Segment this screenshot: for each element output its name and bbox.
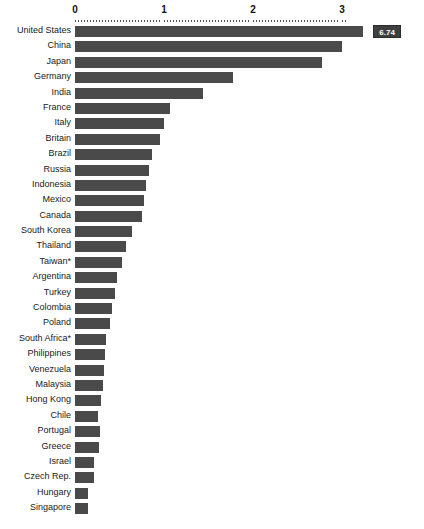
bar-category-label-text: Japan <box>46 56 71 68</box>
bar-row: Portugal <box>0 425 424 440</box>
bar <box>75 380 103 391</box>
bar <box>75 318 110 329</box>
bar-category-label-text: Singapore <box>30 502 71 514</box>
bar <box>75 226 132 237</box>
bar-category-label-text: Hungary <box>37 487 71 499</box>
bar <box>75 472 94 483</box>
bar-category-label-text: Czech Rep. <box>24 471 71 483</box>
bar-category-label-text: Israel <box>49 456 71 468</box>
bar-row: Japan <box>0 56 424 71</box>
x-axis-tick-labels: 0123 <box>0 4 424 18</box>
bar-category-label-text: United States <box>17 25 71 37</box>
bar <box>75 457 94 468</box>
bar-category-label-text: Taiwan* <box>39 256 71 268</box>
bar <box>75 411 98 422</box>
bar-category-label-text: Venezuela <box>29 364 71 376</box>
bar-category-label-text: Russia <box>43 164 71 176</box>
bar <box>75 72 233 83</box>
bar-category-label-text: Malaysia <box>35 379 71 391</box>
bar-category-label-text: Thailand <box>36 240 71 252</box>
bar-category-label-text: Italy <box>54 117 71 129</box>
bar-value-callout: 6.74 <box>373 25 401 38</box>
bar-row: Israel <box>0 456 424 471</box>
bar <box>75 303 112 314</box>
x-axis-tick-2: 2 <box>250 4 256 15</box>
bar-row: Russia <box>0 164 424 179</box>
bar-row: Argentina <box>0 271 424 286</box>
bar-category-label-text: Portugal <box>37 425 71 437</box>
bar <box>75 180 146 191</box>
bar-row: Hong Kong <box>0 394 424 409</box>
bar <box>75 426 100 437</box>
bar-rows: United States6.74ChinaJapanGermanyIndiaF… <box>0 25 424 518</box>
bar-row: Germany <box>0 71 424 86</box>
bar-row: Turkey <box>0 287 424 302</box>
bar-row: Britain <box>0 133 424 148</box>
bar-category-label-text: Greece <box>41 441 71 453</box>
bar-row: China <box>0 40 424 55</box>
bar <box>75 395 101 406</box>
bar-row: Indonesia <box>0 179 424 194</box>
bar <box>75 41 342 52</box>
bar-category-label-text: Chile <box>50 410 71 422</box>
bar <box>75 149 152 160</box>
bar-row: Malaysia <box>0 379 424 394</box>
bar-row: Chile <box>0 410 424 425</box>
bar <box>75 26 363 37</box>
bar-row: Canada <box>0 210 424 225</box>
bar-category-label-text: China <box>47 40 71 52</box>
bar <box>75 241 126 252</box>
bar <box>75 118 164 129</box>
bar-row: Singapore <box>0 502 424 517</box>
bar-row: Italy <box>0 117 424 132</box>
bar-category-label-text: South Africa* <box>19 333 71 345</box>
bar-category-label-text: Poland <box>43 317 71 329</box>
bar <box>75 57 322 68</box>
bar-row: South Korea <box>0 225 424 240</box>
bar-category-label-text: Philippines <box>27 348 71 360</box>
bar-row: South Africa* <box>0 333 424 348</box>
bar-row: Czech Rep. <box>0 471 424 486</box>
bar-row: India <box>0 87 424 102</box>
bar-row: Philippines <box>0 348 424 363</box>
bar-category-label-text: Britain <box>45 133 71 145</box>
x-axis-rule-segment <box>253 20 338 22</box>
bar-row: Colombia <box>0 302 424 317</box>
bar-row: Thailand <box>0 240 424 255</box>
bar-category-label-text: India <box>51 87 71 99</box>
bar-row: Mexico <box>0 194 424 209</box>
x-axis-rule-segment <box>342 20 346 22</box>
bar-category-label-text: Hong Kong <box>26 394 71 406</box>
bar-row: Brazil <box>0 148 424 163</box>
bar <box>75 349 105 360</box>
bar <box>75 503 88 514</box>
x-axis-tick-1: 1 <box>161 4 167 15</box>
bar-category-label-text: Canada <box>39 210 71 222</box>
bar <box>75 334 106 345</box>
bar-row: Hungary <box>0 487 424 502</box>
bar-category-label-text: Indonesia <box>32 179 71 191</box>
bar <box>75 257 122 268</box>
bar <box>75 165 149 176</box>
x-axis-tick-3: 3 <box>339 4 345 15</box>
bar-row: Taiwan* <box>0 256 424 271</box>
bar-row: Greece <box>0 441 424 456</box>
bar <box>75 103 170 114</box>
bar <box>75 134 160 145</box>
bar-category-label-text: France <box>43 102 71 114</box>
bar-category-label-text: South Korea <box>21 225 71 237</box>
bar-category-label-text: Brazil <box>48 148 71 160</box>
x-axis-rule-segment <box>75 20 160 22</box>
bar-row: France <box>0 102 424 117</box>
bar <box>75 442 99 453</box>
bar-category-label-text: Mexico <box>42 194 71 206</box>
bar <box>75 488 88 499</box>
bar-chart: 0123 United States6.74ChinaJapanGermanyI… <box>0 0 424 529</box>
bar <box>75 195 144 206</box>
bar-row: Venezuela <box>0 364 424 379</box>
x-axis-rule-segment <box>164 20 249 22</box>
bar <box>75 272 117 283</box>
bar-row: United States6.74 <box>0 25 424 40</box>
bar-category-label-text: Germany <box>34 71 71 83</box>
bar-category-label-text: Turkey <box>44 287 71 299</box>
